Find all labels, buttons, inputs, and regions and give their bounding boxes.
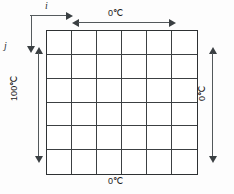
- grid-cell: [172, 31, 197, 55]
- grid-cell: [97, 126, 122, 150]
- axis-label-j: j: [4, 40, 7, 51]
- grid-cell: [147, 126, 172, 150]
- arrow-shaft: [212, 53, 213, 157]
- grid-cell: [122, 126, 147, 150]
- heat-conduction-grid-figure: i j 0℃ 0℃ 100℃ 0℃: [0, 0, 234, 194]
- grid-cell: [47, 55, 72, 79]
- top-dimension-arrow: [72, 18, 176, 27]
- grid-cell: [122, 103, 147, 127]
- grid-cell: [147, 103, 172, 127]
- grid-cell: [72, 150, 97, 174]
- right-arrowhead-icon: [169, 19, 176, 27]
- grid-cell: [47, 79, 72, 103]
- grid-cell: [97, 31, 122, 55]
- grid-cell: [97, 103, 122, 127]
- arrow-shaft: [38, 53, 39, 157]
- grid-cell: [172, 79, 197, 103]
- grid-cell: [147, 31, 172, 55]
- grid-cell: [72, 126, 97, 150]
- left-dimension-arrow: [34, 47, 43, 163]
- grid-cell: [122, 79, 147, 103]
- right-dimension-arrow: [208, 47, 217, 163]
- grid-cell: [72, 103, 97, 127]
- finite-difference-grid: [46, 30, 198, 175]
- boundary-label-bottom: 0℃: [108, 176, 123, 186]
- grid-cell: [147, 55, 172, 79]
- down-arrowhead-icon: [209, 156, 217, 163]
- grid-cell: [97, 79, 122, 103]
- grid-cell: [122, 31, 147, 55]
- grid-cell: [172, 103, 197, 127]
- grid-cell: [72, 79, 97, 103]
- grid-cell: [147, 150, 172, 174]
- grid-cell: [97, 55, 122, 79]
- down-arrowhead-icon: [35, 156, 43, 163]
- j-axis-line: [31, 15, 32, 48]
- grid-cell: [47, 126, 72, 150]
- boundary-label-left: 100℃: [9, 76, 19, 101]
- grid-cell: [172, 150, 197, 174]
- grid-cell: [172, 55, 197, 79]
- boundary-label-right: 0℃: [197, 86, 207, 101]
- grid-cell: [97, 150, 122, 174]
- axis-label-i: i: [45, 0, 48, 11]
- grid-cell: [122, 55, 147, 79]
- i-axis-line: [30, 15, 68, 16]
- grid-cell: [47, 31, 72, 55]
- grid-cell: [172, 126, 197, 150]
- grid-cell: [72, 55, 97, 79]
- grid-cell: [47, 103, 72, 127]
- grid-cell: [122, 150, 147, 174]
- grid-cell: [72, 31, 97, 55]
- arrow-shaft: [78, 22, 170, 23]
- boundary-label-top: 0℃: [108, 8, 123, 18]
- grid-cell: [147, 79, 172, 103]
- grid-cell: [47, 150, 72, 174]
